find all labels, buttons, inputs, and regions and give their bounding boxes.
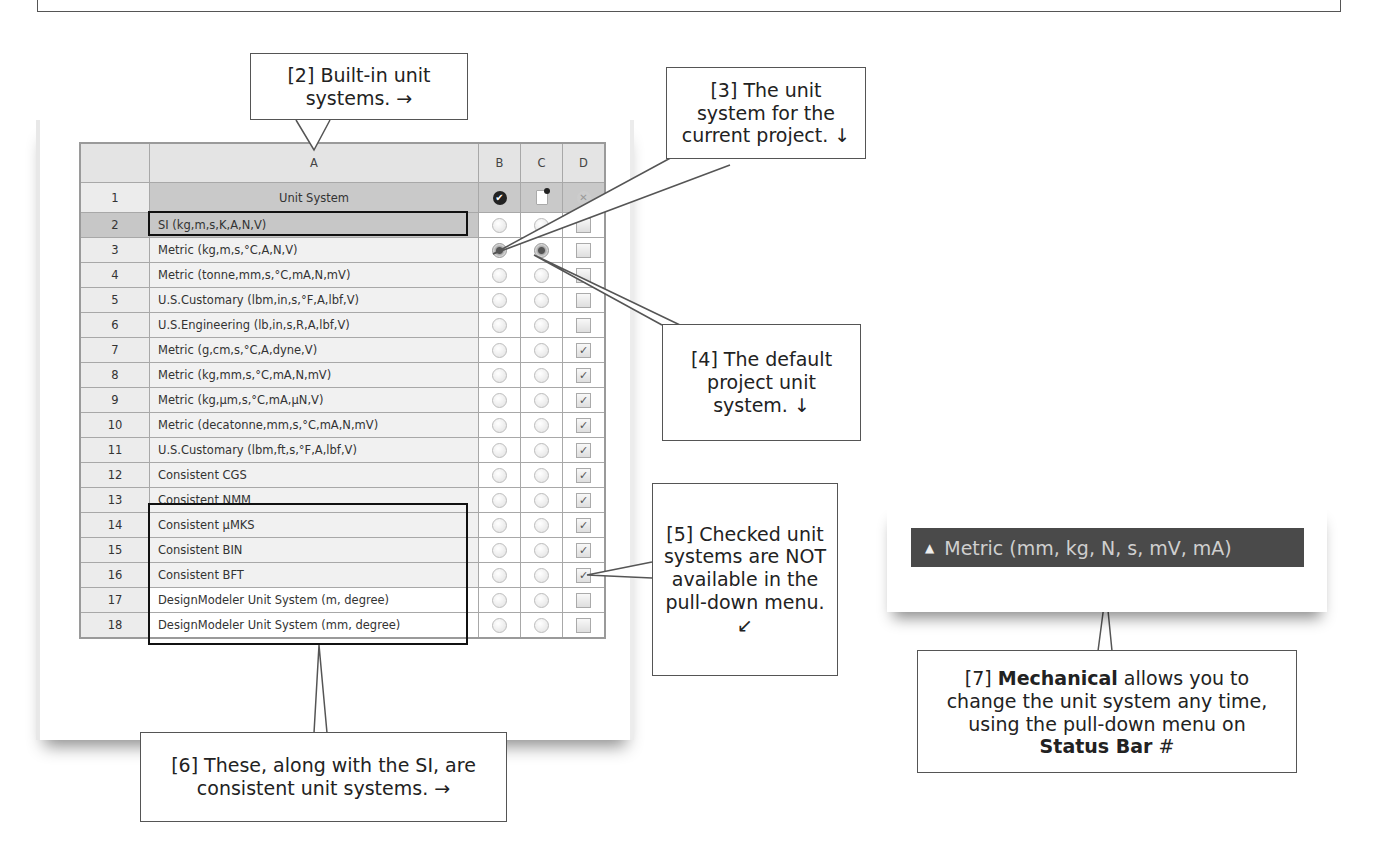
default-project-radio[interactable] — [534, 268, 549, 283]
table-row[interactable]: 3Metric (kg,m,s,°C,A,N,V) — [80, 238, 605, 263]
unit-system-name[interactable]: Consistent CGS — [150, 463, 479, 488]
table-row[interactable]: 16Consistent BFT✓ — [80, 563, 605, 588]
unit-system-name[interactable]: DesignModeler Unit System (m, degree) — [150, 588, 479, 613]
active-project-radio[interactable] — [492, 243, 507, 258]
unit-system-name[interactable]: Consistent µMKS — [150, 513, 479, 538]
table-row[interactable]: 7Metric (g,cm,s,°C,A,dyne,V)✓ — [80, 338, 605, 363]
unit-system-name[interactable]: Metric (decatonne,mm,s,°C,mA,N,mV) — [150, 413, 479, 438]
corner-header — [80, 143, 150, 183]
default-project-radio[interactable] — [534, 218, 549, 233]
unit-system-name[interactable]: U.S.Engineering (lb,in,s,R,A,lbf,V) — [150, 313, 479, 338]
unit-system-name[interactable]: Metric (g,cm,s,°C,A,dyne,V) — [150, 338, 479, 363]
table-row[interactable]: 10Metric (decatonne,mm,s,°C,mA,N,mV)✓ — [80, 413, 605, 438]
unit-system-name[interactable]: U.S.Customary (lbm,in,s,°F,A,lbf,V) — [150, 288, 479, 313]
unit-system-name[interactable]: Consistent NMM — [150, 488, 479, 513]
unit-system-name[interactable]: Metric (tonne,mm,s,°C,mA,N,mV) — [150, 263, 479, 288]
default-project-radio[interactable] — [534, 343, 549, 358]
unit-system-name[interactable]: SI (kg,m,s,K,A,N,V) — [150, 213, 479, 238]
active-project-radio[interactable] — [492, 393, 507, 408]
default-project-radio[interactable] — [534, 593, 549, 608]
table-row[interactable]: 9Metric (kg,µm,s,°C,mA,µN,V)✓ — [80, 388, 605, 413]
callout-consistent-systems: [6] These, along with the SI, are consis… — [140, 732, 507, 822]
unit-system-name[interactable]: Consistent BIN — [150, 538, 479, 563]
table-row[interactable]: 6U.S.Engineering (lb,in,s,R,A,lbf,V) — [80, 313, 605, 338]
default-project-radio[interactable] — [534, 468, 549, 483]
active-project-radio[interactable] — [492, 293, 507, 308]
default-project-radio[interactable] — [534, 293, 549, 308]
active-project-radio[interactable] — [492, 218, 507, 233]
default-project-radio[interactable] — [534, 443, 549, 458]
suppress-checkbox[interactable] — [576, 318, 591, 333]
suppress-checkbox[interactable] — [576, 293, 591, 308]
active-project-radio[interactable] — [492, 493, 507, 508]
unit-system-name[interactable]: Consistent BFT — [150, 563, 479, 588]
suppress-checkbox[interactable] — [576, 618, 591, 633]
active-project-radio[interactable] — [492, 318, 507, 333]
unit-system-dropdown[interactable]: ▲ Metric (mm, kg, N, s, mV, mA) — [911, 528, 1304, 567]
unit-system-name[interactable]: Metric (kg,mm,s,°C,mA,N,mV) — [150, 363, 479, 388]
active-project-radio[interactable] — [492, 543, 507, 558]
suppress-checkbox[interactable] — [576, 268, 591, 283]
default-project-radio[interactable] — [534, 318, 549, 333]
row-number: 1 — [80, 183, 150, 213]
active-project-radio[interactable] — [492, 518, 507, 533]
active-project-radio[interactable] — [492, 468, 507, 483]
default-project-radio[interactable] — [534, 543, 549, 558]
default-project-radio[interactable] — [534, 618, 549, 633]
table-row[interactable]: 18DesignModeler Unit System (mm, degree) — [80, 613, 605, 639]
active-project-radio[interactable] — [492, 368, 507, 383]
active-project-radio[interactable] — [492, 443, 507, 458]
column-header-d[interactable]: D — [563, 143, 606, 183]
default-project-radio[interactable] — [534, 368, 549, 383]
table-row[interactable]: 13Consistent NMM✓ — [80, 488, 605, 513]
table-row[interactable]: 8Metric (kg,mm,s,°C,mA,N,mV)✓ — [80, 363, 605, 388]
table-row[interactable]: 2SI (kg,m,s,K,A,N,V) — [80, 213, 605, 238]
suppress-checkbox[interactable]: ✓ — [576, 393, 591, 408]
column-header-b[interactable]: B — [479, 143, 521, 183]
column-header-a[interactable]: A — [150, 143, 479, 183]
row-number: 6 — [80, 313, 150, 338]
active-project-radio[interactable] — [492, 568, 507, 583]
callout-built-in-systems: [2] Built-in unit systems. → — [250, 53, 468, 120]
suppress-checkbox[interactable]: ✓ — [576, 368, 591, 383]
active-project-radio[interactable] — [492, 618, 507, 633]
unit-system-name[interactable]: U.S.Customary (lbm,ft,s,°F,A,lbf,V) — [150, 438, 479, 463]
unit-system-name[interactable]: Metric (kg,m,s,°C,A,N,V) — [150, 238, 479, 263]
default-project-radio[interactable] — [534, 243, 549, 258]
callout-text: [3] The unit system for the current proj… — [675, 79, 857, 147]
check-circle-icon: ✔ — [493, 191, 507, 205]
row-number: 10 — [80, 413, 150, 438]
table-row[interactable]: 14Consistent µMKS✓ — [80, 513, 605, 538]
table-row[interactable]: 12Consistent CGS✓ — [80, 463, 605, 488]
suppress-checkbox[interactable]: ✓ — [576, 468, 591, 483]
suppress-checkbox[interactable] — [576, 593, 591, 608]
unit-system-name[interactable]: DesignModeler Unit System (mm, degree) — [150, 613, 479, 639]
suppress-checkbox[interactable]: ✓ — [576, 568, 591, 583]
suppress-checkbox[interactable]: ✓ — [576, 518, 591, 533]
suppress-checkbox[interactable]: ✓ — [576, 493, 591, 508]
row-number: 16 — [80, 563, 150, 588]
suppress-checkbox[interactable]: ✓ — [576, 343, 591, 358]
suppress-checkbox[interactable] — [576, 243, 591, 258]
default-project-radio[interactable] — [534, 393, 549, 408]
suppress-checkbox[interactable] — [576, 218, 591, 233]
table-row[interactable]: 15Consistent BIN✓ — [80, 538, 605, 563]
default-project-radio[interactable] — [534, 493, 549, 508]
unit-system-name[interactable]: Metric (kg,µm,s,°C,mA,µN,V) — [150, 388, 479, 413]
table-row[interactable]: 5U.S.Customary (lbm,in,s,°F,A,lbf,V) — [80, 288, 605, 313]
active-project-radio[interactable] — [492, 593, 507, 608]
default-project-radio[interactable] — [534, 418, 549, 433]
active-project-radio[interactable] — [492, 418, 507, 433]
active-project-radio[interactable] — [492, 268, 507, 283]
default-project-radio[interactable] — [534, 568, 549, 583]
table-row[interactable]: 17DesignModeler Unit System (m, degree) — [80, 588, 605, 613]
default-project-radio[interactable] — [534, 518, 549, 533]
suppress-checkbox[interactable]: ✓ — [576, 418, 591, 433]
column-header-c[interactable]: C — [521, 143, 563, 183]
suppress-checkbox[interactable]: ✓ — [576, 543, 591, 558]
unit-system-selected: Metric (mm, kg, N, s, mV, mA) — [944, 537, 1232, 559]
suppress-checkbox[interactable]: ✓ — [576, 443, 591, 458]
table-row[interactable]: 4Metric (tonne,mm,s,°C,mA,N,mV) — [80, 263, 605, 288]
table-row[interactable]: 11U.S.Customary (lbm,ft,s,°F,A,lbf,V)✓ — [80, 438, 605, 463]
active-project-radio[interactable] — [492, 343, 507, 358]
